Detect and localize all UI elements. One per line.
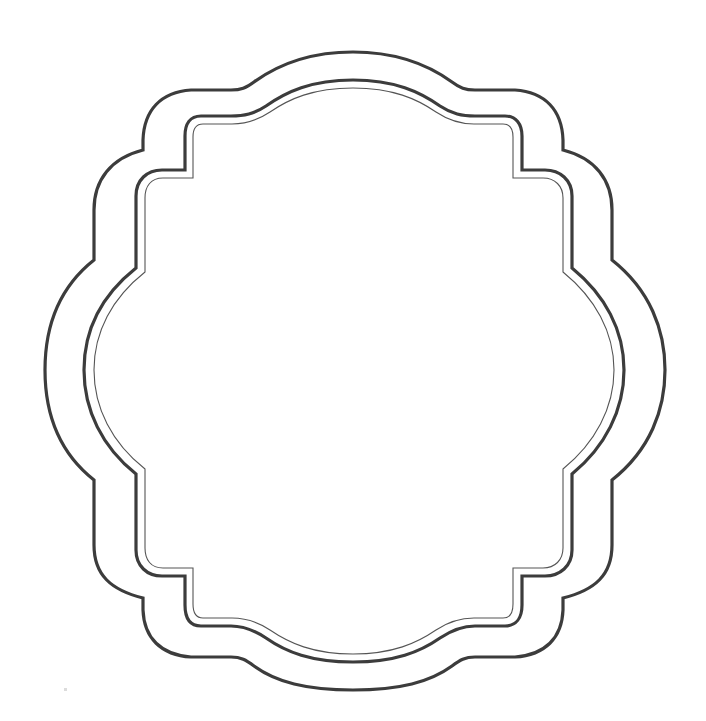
inner-thin-border bbox=[94, 88, 614, 654]
scan-artifact bbox=[64, 688, 67, 691]
decorative-frame-canvas bbox=[0, 0, 706, 721]
inner-border bbox=[84, 80, 624, 662]
ornamental-frame bbox=[0, 0, 706, 721]
outer-border bbox=[45, 52, 665, 690]
